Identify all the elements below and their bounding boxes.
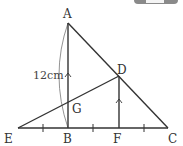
dimension-label-AB: 12cm — [33, 69, 64, 82]
label-A: A — [62, 7, 72, 21]
label-F: F — [113, 132, 121, 146]
label-E: E — [4, 132, 13, 146]
label-C: C — [168, 132, 177, 146]
label-G: G — [72, 102, 82, 116]
geometry-diagram: A B C D E F G 12cm — [0, 0, 183, 146]
label-D: D — [117, 63, 127, 77]
label-B: B — [63, 132, 72, 146]
